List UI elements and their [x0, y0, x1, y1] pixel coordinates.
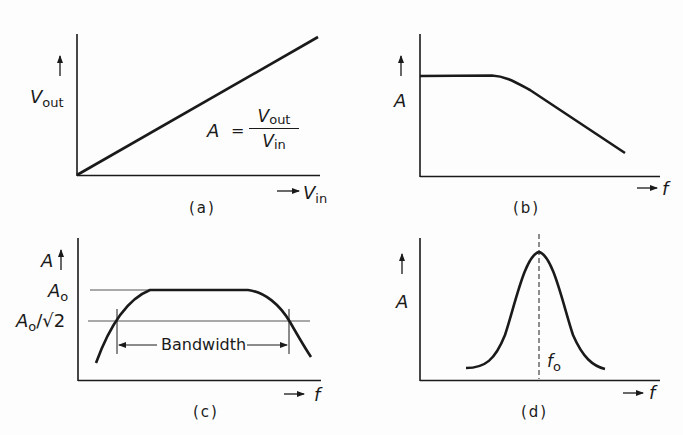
panel-a-caption: (a) [189, 201, 216, 216]
panel-c-caption: (c) [193, 405, 219, 420]
fraction-bar [249, 128, 299, 129]
panel-d-x-label: f [649, 384, 655, 402]
panel-b-response-curve [420, 76, 625, 154]
panel-c-y-label: A [41, 252, 53, 270]
panel-c-graphics [61, 238, 321, 394]
panel-c-bandwidth-label: Bandwidth [161, 337, 246, 353]
figure-graphics [0, 0, 683, 435]
panel-d-f0-label: fo [547, 353, 561, 370]
panel-c-x-label: f [314, 386, 320, 404]
panel-c-a0-label: Ao [48, 282, 68, 300]
panel-a-x-label: Vin [303, 184, 327, 202]
figure: Vout Vin A = Vout Vin (a) A f (b) A Ao A… [0, 0, 683, 435]
panel-b-graphics [401, 34, 660, 188]
panel-d-y-label: A [396, 293, 408, 311]
panel-a-equation-lhs: A [207, 122, 219, 140]
panel-d-resonance-curve [466, 252, 605, 369]
panel-d-graphics [402, 234, 660, 393]
panel-c-half-power-label: Ao/√2 [16, 312, 65, 330]
panel-b-y-label: A [394, 92, 406, 110]
panel-b-x-label: f [662, 180, 668, 198]
panel-a-equation-fraction: Vout Vin [249, 106, 299, 151]
panel-a-equation-equals: = [231, 123, 244, 139]
panel-d-caption: (d) [521, 405, 548, 420]
fraction-denominator: Vin [249, 131, 299, 151]
fraction-numerator: Vout [249, 106, 299, 126]
panel-a-y-label: Vout [30, 88, 64, 106]
panel-b-caption: (b) [513, 201, 540, 216]
